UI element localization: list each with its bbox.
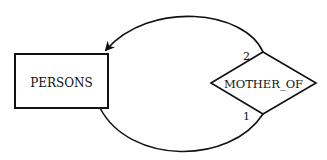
role-label-lower: 1	[243, 110, 250, 123]
er-diagram: PERSONS MOTHER_OF 2 1	[0, 0, 327, 160]
relationship-mother-of-label: MOTHER_OF	[224, 77, 303, 91]
relationship-arc-lower	[100, 108, 263, 152]
role-label-upper: 2	[243, 50, 250, 63]
relationship-arc-upper	[106, 16, 263, 52]
entity-persons-label: PERSONS	[30, 76, 93, 90]
